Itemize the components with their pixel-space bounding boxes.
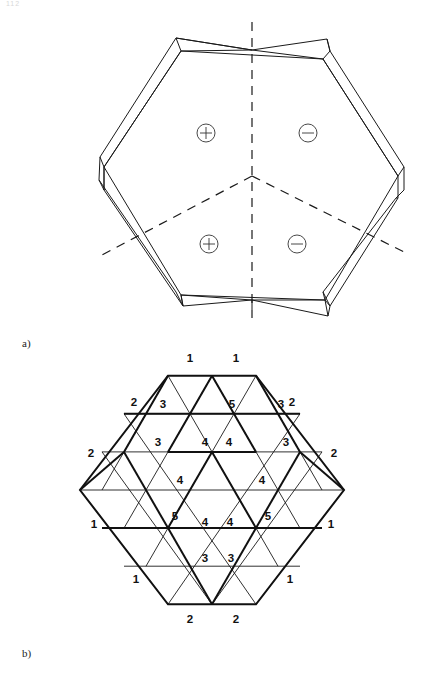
charge-symbol-plus-lower-left <box>200 235 218 253</box>
figure-a-container <box>0 0 425 350</box>
edge-label-left-lower-outer: 1 <box>133 573 140 585</box>
lower-left-dashed-axis <box>100 176 252 256</box>
triangle-label-r4-c1: 5 <box>172 510 179 522</box>
edge-label-left-lower-inner: 1 <box>91 518 98 530</box>
rim-strip-left-lower <box>99 167 183 306</box>
edge-label-bottom-2: 2 <box>233 613 239 625</box>
figure-page: 112 <box>0 0 425 674</box>
triangle-label-r2-c2: 4 <box>202 436 209 448</box>
triangle-label-r5-c2: 3 <box>228 552 234 564</box>
triangle-label-r1-c1: 3 <box>160 398 166 410</box>
triangle-label-r3-c2: 4 <box>259 474 266 486</box>
boundary-edge-labels: 1 1 2 2 2 2 1 1 2 2 1 1 <box>88 352 337 625</box>
triangle-label-r3-c1: 4 <box>177 474 184 486</box>
triangle-label-r2-c3: 4 <box>226 436 233 448</box>
triangle-label-r5-c1: 3 <box>202 552 208 564</box>
triangle-label-r1-c3: 3 <box>278 398 284 410</box>
rim-strip-right-lower <box>323 198 398 306</box>
edge-label-right-lower-outer: 1 <box>287 573 294 585</box>
figure-b-caption: b) <box>22 647 31 659</box>
edge-label-top-2: 1 <box>233 352 240 364</box>
symmetry-axes-group <box>100 22 404 318</box>
rim-strip-left-upper <box>99 38 181 190</box>
triangle-label-r4-c4: 5 <box>265 510 272 522</box>
lower-right-dashed-axis <box>252 176 404 252</box>
triangle-label-r2-c1: 3 <box>155 436 161 448</box>
figure-b-container: 1 1 2 2 2 2 1 1 2 2 1 1 3 5 3 3 <box>0 340 425 640</box>
triangle-label-r2-c4: 3 <box>283 436 289 448</box>
edge-label-top-1: 1 <box>187 352 194 364</box>
charge-symbol-minus-upper-right <box>299 124 317 142</box>
edge-label-right-upper-outer: 2 <box>289 396 295 408</box>
charge-symbol-minus-lower-right <box>288 235 306 253</box>
rim-strip-right-upper <box>323 51 404 198</box>
edge-label-bottom-1: 2 <box>187 613 193 625</box>
triangle-label-r4-c2: 4 <box>202 516 209 528</box>
figure-a-drawing <box>0 0 425 350</box>
rim-strip-top-left <box>176 38 252 51</box>
triangle-label-r4-c3: 4 <box>227 516 234 528</box>
edge-label-right-upper-inner: 2 <box>331 447 337 459</box>
figure-b-drawing: 1 1 2 2 2 2 1 1 2 2 1 1 3 5 3 3 <box>0 340 425 640</box>
interior-grid-lines <box>80 376 344 605</box>
edge-label-left-upper-inner: 2 <box>88 447 94 459</box>
edge-label-left-upper-outer: 2 <box>131 396 137 408</box>
charge-symbol-plus-upper-left <box>197 124 215 142</box>
triangle-label-r1-c2: 5 <box>229 398 236 410</box>
rim-strip-bottom-right <box>252 300 330 316</box>
edge-label-right-lower-inner: 1 <box>328 518 335 530</box>
